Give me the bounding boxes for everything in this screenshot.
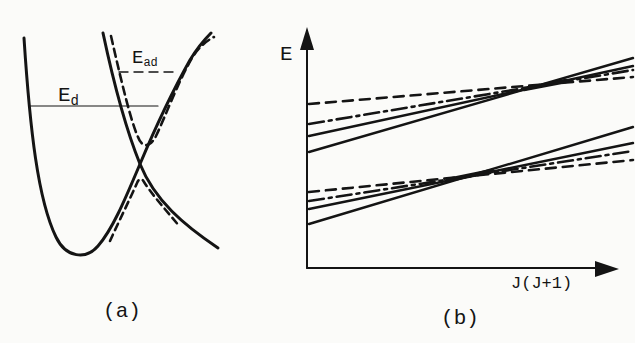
- panel-a-Ead-label: Ead: [132, 47, 158, 70]
- panel-b-caption: (b): [441, 307, 479, 330]
- panel-b-y-axis-arrowhead: [300, 27, 314, 50]
- figure-canvas: Ed Ead (a) E J(J+1): [0, 0, 635, 343]
- panel-b-upper-dashdot-line: [309, 70, 633, 124]
- panel-b-upper-solid-steep-line: [309, 58, 633, 152]
- panel-a-steep-curve: [103, 33, 218, 248]
- panel-b-upper-solid-shallow-line: [309, 66, 633, 136]
- panel-a: [24, 33, 218, 255]
- panel-b: [300, 27, 633, 277]
- panel-a-caption: (a): [103, 300, 141, 323]
- figure-avoided-crossing: Ed Ead (a) E J(J+1): [0, 0, 635, 343]
- panel-a-Ed-label: Ed: [58, 84, 79, 109]
- panel-b-y-axis-label: E: [280, 43, 293, 66]
- panel-b-x-axis-label: J(J+1): [511, 274, 572, 293]
- panel-b-x-axis-arrowhead: [595, 261, 619, 277]
